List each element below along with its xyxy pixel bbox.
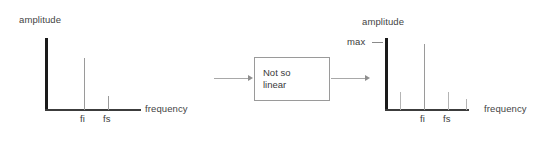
right-tick-label-fi: fi (420, 113, 425, 124)
left-spike-fs (108, 96, 109, 110)
left-tick-label-fi: fi (80, 113, 85, 124)
left-spike-fi (84, 58, 85, 110)
right-spike-4 (466, 99, 467, 110)
output-arrow-head-icon (365, 75, 370, 81)
nonlinear-process-label: Not so linear (263, 67, 325, 91)
right-amplitude-label: amplitude (362, 16, 404, 27)
right-spike-fi (424, 44, 425, 110)
right-frequency-label: frequency (484, 103, 527, 114)
right-spike-fs (448, 92, 449, 110)
right-y-axis (385, 38, 388, 111)
left-x-axis (45, 109, 141, 111)
input-arrow-head-icon (248, 75, 253, 81)
diagram-canvas: amplitude fi fs frequency Not so linear … (0, 0, 556, 142)
left-tick-label-fs: fs (103, 113, 111, 124)
input-arrow-line (214, 78, 250, 79)
output-arrow-line (331, 78, 367, 79)
right-max-tick-mark (372, 42, 383, 43)
left-frequency-label: frequency (145, 103, 188, 114)
left-y-axis (45, 38, 48, 111)
right-max-label: max (347, 36, 365, 47)
right-x-axis (385, 109, 469, 111)
left-amplitude-label: amplitude (19, 14, 61, 25)
right-tick-label-fs: fs (443, 113, 451, 124)
right-spike-1 (400, 92, 401, 110)
